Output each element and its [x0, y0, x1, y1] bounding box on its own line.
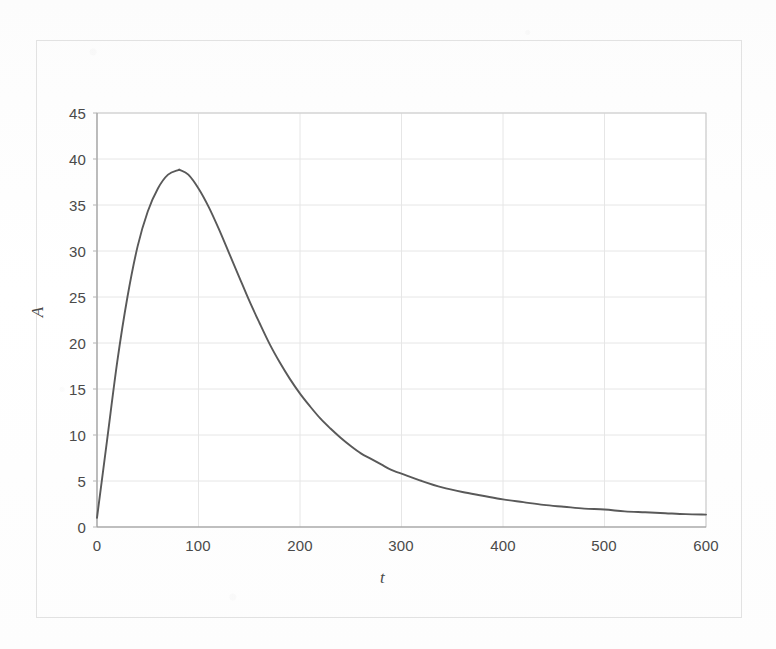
y-tick-label: 5: [52, 473, 86, 490]
x-tick-label: 100: [175, 537, 221, 554]
x-axis-title: t: [380, 568, 385, 588]
x-tick-label: 200: [277, 537, 323, 554]
y-tick-label: 40: [52, 151, 86, 168]
y-tick-label: 35: [52, 197, 86, 214]
x-tick-label: 400: [480, 537, 526, 554]
x-tick-label: 600: [683, 537, 729, 554]
y-tick-label: 0: [52, 519, 86, 536]
y-tick-label: 20: [52, 335, 86, 352]
x-tick-label: 500: [581, 537, 627, 554]
x-tick-label: 300: [378, 537, 424, 554]
y-tick-label: 25: [52, 289, 86, 306]
y-axis-tick-marks: [93, 113, 97, 527]
y-tick-label: 30: [52, 243, 86, 260]
y-axis-title: A: [28, 307, 48, 317]
y-tick-label: 15: [52, 381, 86, 398]
x-tick-label: 0: [74, 537, 120, 554]
y-tick-label: 45: [52, 105, 86, 122]
y-tick-label: 10: [52, 427, 86, 444]
